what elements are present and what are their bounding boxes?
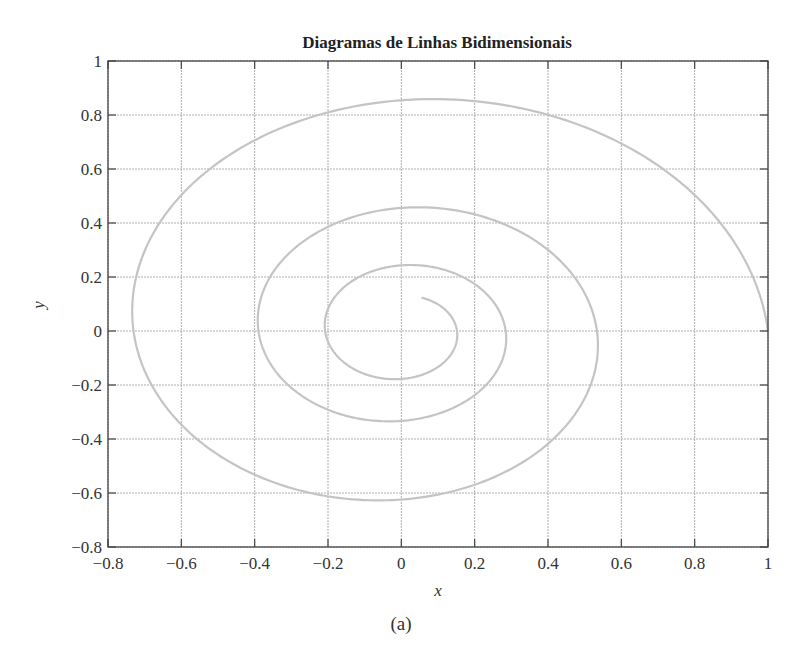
x-tick-labels: −0.8−0.6−0.4−0.200.20.40.60.81 [93, 554, 773, 573]
y-tick-label: 0.4 [81, 214, 103, 233]
y-tick-label: −0.2 [71, 376, 102, 395]
y-axis-label: y [29, 301, 48, 311]
y-tick-label: 0 [94, 322, 103, 341]
chart-title: Diagramas de Linhas Bidimensionais [302, 33, 572, 52]
x-tick-label: −0.4 [239, 554, 270, 573]
x-axis-label: x [433, 581, 442, 600]
line-chart: Diagramas de Linhas Bidimensionais −0.8−… [0, 0, 801, 657]
y-tick-label: −0.4 [71, 430, 102, 449]
y-tick-label: −0.8 [71, 538, 102, 557]
x-tick-label: 0.2 [464, 554, 485, 573]
x-tick-label: 1 [764, 554, 773, 573]
y-tick-label: 0.8 [81, 106, 102, 125]
x-tick-label: 0.4 [537, 554, 559, 573]
y-tick-labels: −0.8−0.6−0.4−0.200.20.40.60.81 [71, 52, 102, 557]
figure-caption: (a) [390, 613, 411, 635]
y-tick-label: −0.6 [71, 484, 102, 503]
x-tick-label: 0.6 [611, 554, 632, 573]
y-tick-label: 1 [94, 52, 103, 71]
x-tick-label: 0 [397, 554, 406, 573]
x-tick-label: 0.8 [684, 554, 705, 573]
spiral-line [132, 99, 768, 500]
x-tick-label: −0.6 [166, 554, 197, 573]
y-tick-label: 0.6 [81, 160, 102, 179]
x-tick-label: −0.2 [313, 554, 344, 573]
y-tick-label: 0.2 [81, 268, 102, 287]
